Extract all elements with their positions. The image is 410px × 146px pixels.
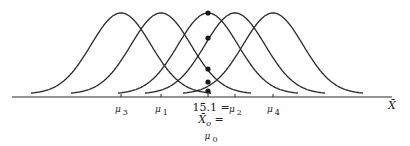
observed-dot-2 — [205, 66, 210, 71]
label-mu4: μ4 — [267, 104, 280, 118]
normal-curve-mu2 — [145, 13, 325, 93]
observed-dot-4 — [205, 88, 210, 93]
observed-points — [205, 10, 210, 93]
observed-value: 15.1 = — [191, 103, 231, 113]
x-axis-label: X̄ — [388, 101, 396, 111]
normal-curve-mu3 — [31, 13, 211, 93]
label-mu1: μ1 — [155, 104, 168, 118]
normal-curve-mu1 — [71, 13, 251, 93]
observed-dot-0 — [205, 10, 210, 15]
label-mu3: μ3 — [115, 104, 128, 118]
observed-dot-1 — [205, 35, 210, 40]
normal-curves — [31, 13, 363, 93]
observed-dot-3 — [205, 79, 210, 84]
observed-mean-label: 15.1 = X̄o = μ0 — [191, 103, 231, 145]
observed-xbar: X̄o = — [191, 115, 231, 129]
observed-mu0: μ0 — [191, 131, 231, 145]
